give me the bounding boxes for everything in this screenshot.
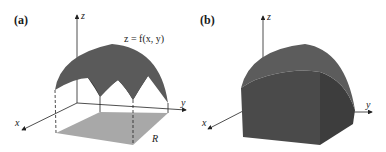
panel-b: (b) z x y xyxy=(200,11,372,145)
x-axis-label: x xyxy=(14,117,20,128)
panel-a-label: (a) xyxy=(14,13,28,27)
figure-canvas: (a) z = f(x, y) z x y R (b) xyxy=(0,0,386,152)
y-axis-label: y xyxy=(180,97,186,108)
solid-side-face xyxy=(320,72,355,145)
y-axis xyxy=(77,103,186,110)
surface xyxy=(55,44,168,103)
x-axis-label: x xyxy=(201,117,207,128)
x-axis xyxy=(22,103,77,130)
surface-equation-label: z = f(x, y) xyxy=(124,33,164,45)
y-axis-label: y xyxy=(365,99,371,110)
z-axis-label: z xyxy=(80,10,85,21)
solid-front-face xyxy=(241,70,320,145)
z-axis-label: z xyxy=(266,11,271,22)
panel-a: (a) z = f(x, y) z x y R xyxy=(14,10,186,145)
x-axis xyxy=(208,111,243,129)
panel-b-label: (b) xyxy=(200,13,215,27)
region-label: R xyxy=(151,133,158,144)
